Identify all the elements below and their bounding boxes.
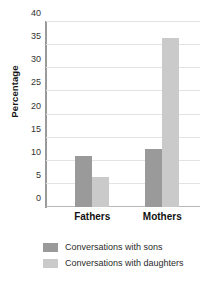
y-axis-tick-label: 10: [17, 148, 41, 157]
bar-mothers-sons: [145, 149, 162, 207]
y-axis-tick-label: 40: [17, 9, 41, 18]
bar-chart: Percentage 4035302520151050 FathersMothe…: [0, 0, 214, 281]
y-axis-tick-labels: 4035302520151050: [14, 22, 41, 207]
y-axis-tick-label: 30: [17, 55, 41, 64]
bar-fathers-daughters: [92, 177, 109, 207]
y-axis-tick-label: 0: [17, 194, 41, 203]
y-axis-tick-label: 25: [17, 78, 41, 87]
legend-swatch-icon: [43, 259, 58, 268]
legend-item: Conversations with daughters: [43, 255, 213, 271]
chart-legend: Conversations with sonsConversations wit…: [43, 239, 213, 271]
y-axis-tick-label: 5: [17, 171, 41, 180]
bar-mothers-daughters: [162, 38, 179, 207]
plot-area: [46, 22, 200, 207]
x-axis-category-labels: FathersMothers: [46, 211, 200, 227]
x-axis-label-mothers: Mothers: [143, 211, 182, 222]
gridline: [46, 21, 200, 22]
legend-label: Conversations with daughters: [65, 258, 184, 268]
y-axis-tick-label: 20: [17, 102, 41, 111]
legend-label: Conversations with sons: [65, 242, 163, 252]
bar-fathers-sons: [75, 156, 92, 207]
y-axis-tick-label: 15: [17, 125, 41, 134]
legend-swatch-icon: [43, 243, 58, 252]
y-axis-tick-label: 35: [17, 32, 41, 41]
legend-item: Conversations with sons: [43, 239, 213, 255]
x-axis-label-fathers: Fathers: [74, 211, 110, 222]
